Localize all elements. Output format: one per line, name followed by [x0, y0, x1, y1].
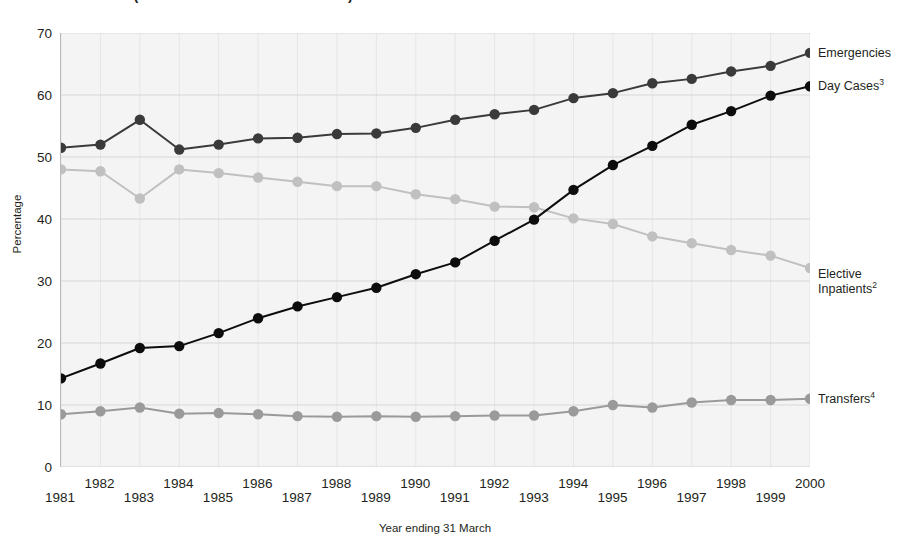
data-point: [371, 181, 381, 191]
data-point: [608, 160, 618, 170]
data-point: [608, 400, 618, 410]
data-point: [332, 412, 342, 422]
data-point: [213, 139, 223, 149]
series-label-superscript: 3: [879, 77, 884, 87]
series-transfers: [61, 394, 810, 422]
data-point: [411, 412, 421, 422]
x-tick-label-1986: 1986: [242, 476, 272, 491]
data-point: [529, 202, 539, 212]
data-point: [687, 238, 697, 248]
data-point: [174, 164, 184, 174]
data-point: [371, 283, 381, 293]
data-point: [805, 81, 810, 91]
x-tick-label-1990: 1990: [400, 476, 430, 491]
series-label-superscript: 2: [872, 280, 877, 290]
data-point: [253, 409, 263, 419]
chart-title: 1981–2000 (NHSScotland – SMR1 & SMR4): [56, 0, 353, 3]
data-point: [135, 343, 145, 353]
y-axis-title: Percentage: [11, 169, 23, 279]
data-point: [568, 213, 578, 223]
data-point: [765, 90, 775, 100]
y-tick-label: 70: [4, 26, 52, 41]
y-tick-label: 20: [4, 336, 52, 351]
x-axis-tick-labels: 1981198219831984198519861987198819891990…: [0, 467, 897, 513]
series-label-transfers: Transfers4: [818, 392, 875, 407]
x-tick-label-1984: 1984: [163, 476, 193, 491]
series-label-emergencies: Emergencies: [818, 46, 891, 61]
series-label-superscript: 4: [870, 390, 875, 400]
series-label-elective-inpatients: ElectiveInpatients2: [818, 267, 877, 297]
data-point: [450, 115, 460, 125]
data-point: [765, 250, 775, 260]
series-day-cases: [61, 81, 810, 383]
plot-canvas: [61, 33, 810, 467]
data-point: [568, 185, 578, 195]
data-point: [61, 409, 66, 419]
data-point: [726, 395, 736, 405]
x-tick-label-1992: 1992: [479, 476, 509, 491]
data-point: [213, 408, 223, 418]
data-point: [647, 141, 657, 151]
data-point: [450, 257, 460, 267]
y-tick-label: 10: [4, 398, 52, 413]
data-point: [61, 373, 66, 383]
data-point: [450, 194, 460, 204]
x-axis-title: Year ending 31 March: [60, 522, 810, 534]
series-emergencies: [61, 48, 810, 155]
x-tick-label-1983: 1983: [124, 490, 154, 505]
data-point: [411, 123, 421, 133]
x-tick-label-1981: 1981: [45, 490, 75, 505]
data-point: [332, 292, 342, 302]
data-point: [95, 166, 105, 176]
data-point: [213, 328, 223, 338]
x-tick-label-1998: 1998: [716, 476, 746, 491]
data-point: [135, 115, 145, 125]
x-tick-label-1985: 1985: [203, 490, 233, 505]
data-point: [765, 395, 775, 405]
data-point: [805, 48, 810, 58]
data-point: [253, 172, 263, 182]
x-tick-label-1996: 1996: [637, 476, 667, 491]
data-point: [529, 105, 539, 115]
data-point: [292, 301, 302, 311]
data-point: [292, 177, 302, 187]
data-point: [489, 201, 499, 211]
data-point: [726, 66, 736, 76]
data-point: [805, 394, 810, 404]
data-point: [647, 402, 657, 412]
data-point: [135, 402, 145, 412]
x-tick-label-1982: 1982: [84, 476, 114, 491]
x-tick-label-1989: 1989: [361, 490, 391, 505]
series-line: [61, 53, 810, 150]
data-point: [332, 129, 342, 139]
data-point: [450, 411, 460, 421]
plot-area: [60, 33, 810, 467]
x-tick-label-1994: 1994: [558, 476, 588, 491]
data-point: [95, 139, 105, 149]
x-tick-label-1993: 1993: [519, 490, 549, 505]
data-point: [568, 406, 578, 416]
chart-figure: 1981–2000 (NHSScotland – SMR1 & SMR4) 01…: [0, 0, 897, 547]
data-point: [529, 214, 539, 224]
data-point: [332, 181, 342, 191]
y-axis-tick-labels: 010203040506070: [0, 33, 52, 467]
data-point: [726, 106, 736, 116]
x-tick-label-2000: 2000: [795, 476, 825, 491]
data-point: [529, 410, 539, 420]
data-point: [174, 341, 184, 351]
series-label-day-cases: Day Cases3: [818, 79, 884, 94]
x-tick-label-1988: 1988: [321, 476, 351, 491]
series-line: [61, 399, 810, 417]
x-tick-label-1999: 1999: [755, 490, 785, 505]
data-point: [95, 406, 105, 416]
data-point: [61, 164, 66, 174]
y-tick-label: 50: [4, 150, 52, 165]
x-tick-label-1997: 1997: [677, 490, 707, 505]
data-point: [371, 411, 381, 421]
data-point: [647, 231, 657, 241]
data-point: [95, 358, 105, 368]
data-point: [608, 219, 618, 229]
data-point: [174, 408, 184, 418]
data-point: [61, 143, 66, 153]
data-point: [687, 397, 697, 407]
